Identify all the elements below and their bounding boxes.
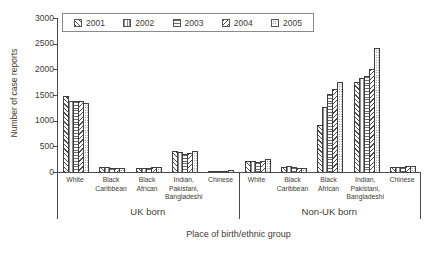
category-label: BlackAfrican xyxy=(311,176,347,202)
legend-item: 2003 xyxy=(173,18,204,28)
legend-item: 2005 xyxy=(271,18,302,28)
bar-2005 xyxy=(83,103,89,172)
category-label: White xyxy=(239,176,275,202)
bar-2005 xyxy=(301,168,307,172)
bar-2005 xyxy=(156,167,162,172)
y-tick-label: 1500 xyxy=(26,91,54,100)
category-label: BlackCaribbean xyxy=(93,176,129,202)
group-uk-born xyxy=(58,18,240,172)
bar-2005 xyxy=(337,82,343,172)
y-tick-label: 2500 xyxy=(26,39,54,48)
bar-group xyxy=(136,167,162,172)
bar-2005 xyxy=(119,168,125,172)
legend-label: 2005 xyxy=(283,18,302,28)
group-label: Non-UK born xyxy=(239,206,421,217)
legend-item: 2001 xyxy=(74,18,105,28)
legend-label: 2002 xyxy=(135,18,154,28)
category-label: Chinese xyxy=(202,176,238,202)
legend-label: 2003 xyxy=(185,18,204,28)
plot-area xyxy=(57,18,421,173)
group-separator-line xyxy=(57,172,58,219)
group-separator-line xyxy=(420,172,421,219)
category-label: Indian,Pakistani,Bangladeshi xyxy=(347,176,384,202)
category-column xyxy=(167,18,203,172)
diagonal-forward-hatch-swatch-icon xyxy=(74,19,82,27)
category-column xyxy=(203,18,239,172)
category-column xyxy=(312,18,348,172)
legend-item: 2002 xyxy=(123,18,154,28)
dot-hatch-swatch-icon xyxy=(271,19,279,27)
legend-label: 2001 xyxy=(86,18,105,28)
category-column xyxy=(385,18,421,172)
legend: 20012002200320042005 xyxy=(62,13,314,32)
bar-group xyxy=(172,151,198,172)
x-axis-title: Place of birth/ethnic group xyxy=(57,229,420,239)
group-non-uk-born xyxy=(240,18,422,172)
y-tick-label: 2000 xyxy=(26,65,54,74)
category-column xyxy=(131,18,167,172)
bar-chart-figure: Number of case reports 05001000150020002… xyxy=(0,0,427,253)
category-column xyxy=(240,18,276,172)
category-column xyxy=(348,18,384,172)
y-axis-title: Number of case reports xyxy=(9,48,19,138)
bar-group xyxy=(354,48,380,172)
horizontal-line-hatch-swatch-icon xyxy=(173,19,181,27)
bar-2005 xyxy=(228,170,234,172)
diagonal-back-hatch-swatch-icon xyxy=(222,19,230,27)
bar-group xyxy=(281,166,307,172)
category-label: White xyxy=(57,176,93,202)
bar-2005 xyxy=(265,159,271,172)
bar-2005 xyxy=(374,48,380,172)
group-separator-line xyxy=(239,172,240,219)
category-label: Chinese xyxy=(384,176,420,202)
legend-item: 2004 xyxy=(222,18,253,28)
category-label: Indian,Pakistani,Bangladeshi xyxy=(165,176,202,202)
y-tick-label: 1000 xyxy=(26,116,54,125)
bar-2005 xyxy=(410,166,416,172)
bar-group xyxy=(317,82,343,172)
group-label: UK born xyxy=(57,206,239,217)
category-column xyxy=(58,18,94,172)
bar-group xyxy=(245,159,271,172)
y-tick-label: 500 xyxy=(26,142,54,151)
category-column xyxy=(276,18,312,172)
category-column xyxy=(94,18,130,172)
legend-label: 2004 xyxy=(234,18,253,28)
category-label: BlackCaribbean xyxy=(275,176,311,202)
bar-group xyxy=(99,167,125,172)
bar-group xyxy=(390,166,416,172)
y-tick-label: 0 xyxy=(26,168,54,177)
bar-group xyxy=(63,96,89,172)
bar-2005 xyxy=(192,151,198,172)
bar-group xyxy=(208,170,234,172)
category-labels-half: WhiteBlackCaribbeanBlackAfricanIndian,Pa… xyxy=(57,176,239,202)
category-labels-half: WhiteBlackCaribbeanBlackAfricanIndian,Pa… xyxy=(239,176,421,202)
y-tick-label: 3000 xyxy=(26,14,54,23)
vertical-line-hatch-swatch-icon xyxy=(123,19,131,27)
category-label: BlackAfrican xyxy=(129,176,165,202)
